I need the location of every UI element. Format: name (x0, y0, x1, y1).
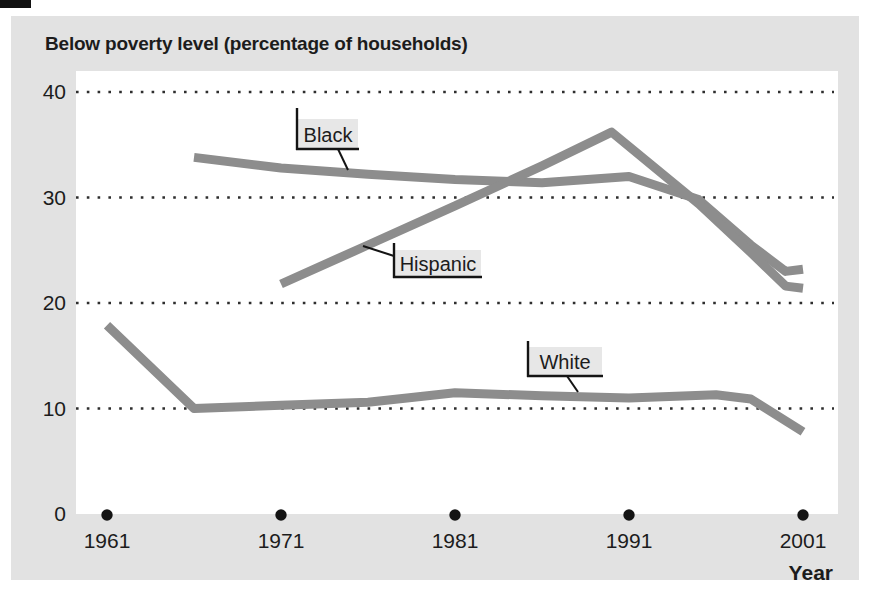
poverty-line-chart: Below poverty level (percentage of house… (0, 0, 870, 597)
plot-area (76, 71, 838, 514)
year-dot-2001 (797, 509, 808, 520)
chart-page: Below poverty level (percentage of house… (0, 0, 870, 597)
callout-black-label: Black (304, 124, 354, 146)
scan-corner-mark (0, 0, 31, 8)
callout-white-label: White (539, 351, 590, 373)
x-tick-2001: 2001 (780, 529, 827, 552)
year-dot-1971 (275, 509, 286, 520)
x-tick-1981: 1981 (432, 529, 479, 552)
callout-hispanic-label: Hispanic (400, 253, 477, 275)
x-tick-1971: 1971 (258, 529, 305, 552)
y-tick-30: 30 (43, 186, 66, 209)
year-dot-1991 (623, 509, 634, 520)
x-axis-title: Year (789, 561, 833, 584)
chart-title: Below poverty level (percentage of house… (45, 33, 468, 54)
x-tick-1991: 1991 (606, 529, 653, 552)
y-tick-40: 40 (43, 80, 66, 103)
year-dot-1961 (101, 509, 112, 520)
y-tick-10: 10 (43, 397, 66, 420)
y-tick-0: 0 (54, 502, 66, 525)
x-tick-1961: 1961 (84, 529, 131, 552)
y-tick-20: 20 (43, 291, 66, 314)
year-dot-1981 (449, 509, 460, 520)
